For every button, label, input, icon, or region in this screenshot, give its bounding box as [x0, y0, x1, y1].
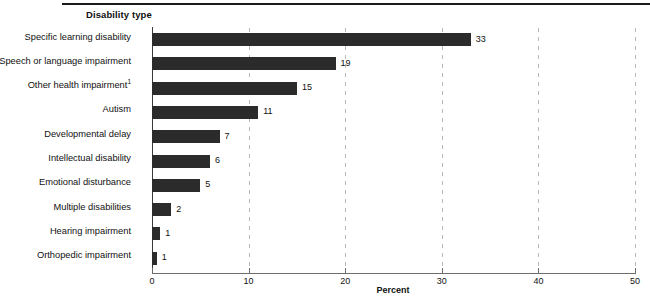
bar-row: Specific learning disability33 [152, 33, 635, 46]
x-axis-tick-label: 20 [340, 276, 350, 286]
bar [152, 33, 471, 46]
chart-figure: Disability type 01020304050 Percent Spec… [0, 0, 650, 297]
bar-row: Developmental delay7 [152, 130, 635, 143]
bar [152, 57, 336, 70]
bar [152, 106, 258, 119]
bar [152, 227, 160, 240]
category-label: Developmental delay [44, 129, 131, 139]
x-axis-tick-mark [635, 268, 636, 274]
bar [152, 82, 297, 95]
bar-row: Orthopedic impairment1 [152, 252, 635, 265]
bar-row: Speech or language impairment19 [152, 57, 635, 70]
x-axis-tick-label: 50 [630, 276, 640, 286]
x-axis-tick-label: 10 [244, 276, 254, 286]
bar-value-label: 7 [225, 131, 230, 141]
bar-value-label: 19 [341, 58, 351, 68]
category-label: Speech or language impairment [0, 56, 131, 66]
bar-row: Other health impairment115 [152, 82, 635, 95]
bar-value-label: 11 [263, 106, 272, 116]
bar [152, 203, 171, 216]
category-label: Multiple disabilities [53, 202, 131, 212]
bar-row: Emotional disturbance5 [152, 179, 635, 192]
x-axis-tick-label: 0 [149, 276, 154, 286]
x-axis-line [152, 273, 636, 274]
category-label: Hearing impairment [50, 226, 131, 236]
plot-area: Specific learning disability33Speech or … [152, 28, 635, 273]
category-label: Autism [103, 104, 131, 114]
bar-row: Hearing impairment1 [152, 227, 635, 240]
bar-value-label: 6 [215, 155, 220, 165]
category-label: Specific learning disability [25, 32, 131, 42]
bar-row: Intellectual disability6 [152, 155, 635, 168]
category-label: Orthopedic impairment [37, 250, 131, 260]
bar-row: Multiple disabilities2 [152, 203, 635, 216]
bar-value-label: 5 [205, 179, 210, 189]
bar-value-label: 2 [176, 204, 181, 214]
bar-value-label: 1 [162, 252, 167, 262]
bar-value-label: 1 [165, 228, 170, 238]
x-axis-tick-label: 30 [437, 276, 447, 286]
category-label: Other health impairment1 [28, 80, 131, 90]
bar-row: Autism11 [152, 106, 635, 119]
bar-value-label: 15 [302, 82, 312, 92]
top-divider-rule [62, 3, 650, 5]
category-label: Intellectual disability [48, 153, 131, 163]
bar [152, 155, 210, 168]
bar [152, 179, 200, 192]
bar [152, 252, 157, 265]
category-label: Emotional disturbance [39, 177, 131, 187]
footnote-marker: 1 [127, 78, 131, 85]
x-axis-title: Percent [376, 285, 409, 295]
gridline [635, 28, 636, 273]
x-axis-tick-label: 40 [533, 276, 543, 286]
y-axis-heading: Disability type [86, 9, 152, 20]
bar [152, 130, 220, 143]
bar-value-label: 33 [476, 34, 486, 44]
